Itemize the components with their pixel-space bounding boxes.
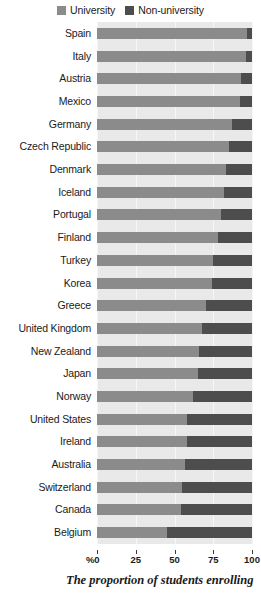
bar-segment-university	[97, 300, 206, 311]
bar-row	[97, 346, 252, 357]
legend-entry-university: University	[57, 5, 115, 16]
bar-segment-university	[97, 51, 246, 62]
category-label: New Zealand	[31, 346, 91, 357]
bar-row	[97, 51, 252, 62]
category-label: Turkey	[60, 255, 91, 266]
category-label: Denmark	[49, 164, 91, 175]
bar-segment-non-university	[181, 504, 252, 515]
bar-segment-university	[97, 141, 229, 152]
bar-segment-non-university	[247, 28, 252, 39]
category-label: Iceland	[58, 187, 91, 198]
bar-segment-non-university	[226, 164, 252, 175]
bar-segment-non-university	[221, 209, 252, 220]
bar-segment-university	[97, 164, 226, 175]
bar-segment-non-university	[246, 51, 252, 62]
bar-row	[97, 187, 252, 198]
bar-segment-university	[97, 368, 198, 379]
bar-row	[97, 164, 252, 175]
bar-row	[97, 73, 252, 84]
bar-segment-non-university	[202, 323, 252, 334]
bar-segment-university	[97, 459, 185, 470]
bar-segment-non-university	[229, 141, 252, 152]
bar-row	[97, 323, 252, 334]
bar-segment-non-university	[206, 300, 253, 311]
legend-swatch-non-university	[125, 6, 134, 15]
category-label: Japan	[63, 368, 91, 379]
bar-row	[97, 368, 252, 379]
bar-segment-non-university	[187, 414, 252, 425]
percent-symbol-label: %	[86, 555, 94, 565]
bar-segment-non-university	[241, 73, 252, 84]
plot-area	[97, 22, 252, 544]
bar-segment-university	[97, 73, 241, 84]
category-label: Czech Republic	[20, 141, 91, 152]
bar-segment-university	[97, 232, 218, 243]
legend-label-university: University	[70, 5, 115, 16]
bar-segment-university	[97, 255, 213, 266]
bar-segment-university	[97, 391, 193, 402]
bar-row	[97, 278, 252, 289]
bar-segment-university	[97, 278, 212, 289]
category-label: Canada	[55, 504, 91, 515]
bar-row	[97, 527, 252, 538]
category-label: United Kingdom	[18, 323, 91, 334]
bar-row	[97, 255, 252, 266]
legend-swatch-university	[57, 6, 66, 15]
bar-row	[97, 436, 252, 447]
chart-legend: University Non-university	[0, 3, 261, 17]
bar-row	[97, 209, 252, 220]
bar-segment-non-university	[213, 255, 252, 266]
category-label: Korea	[64, 278, 91, 289]
bar-row	[97, 119, 252, 130]
bar-segment-non-university	[182, 482, 252, 493]
bar-segment-non-university	[185, 459, 252, 470]
bar-segment-non-university	[212, 278, 252, 289]
category-label: Portugal	[53, 209, 91, 220]
bar-segment-university	[97, 28, 247, 39]
category-label: Norway	[56, 391, 91, 402]
legend-label-non-university: Non-university	[138, 5, 204, 16]
category-label: United States	[30, 414, 91, 425]
bar-segment-university	[97, 346, 199, 357]
category-label: Mexico	[59, 96, 91, 107]
bar-segment-non-university	[193, 391, 252, 402]
bar-row	[97, 232, 252, 243]
bar-segment-university	[97, 187, 224, 198]
bar-row	[97, 459, 252, 470]
category-label: Australia	[51, 459, 91, 470]
axis-tick-label: 0	[94, 555, 99, 565]
axis-tick-label: 50	[169, 555, 180, 565]
category-label: Italy	[72, 51, 91, 62]
bar-row	[97, 141, 252, 152]
axis-tick-label: 25	[130, 555, 141, 565]
bar-segment-non-university	[232, 119, 252, 130]
category-label: Ireland	[60, 436, 91, 447]
bar-segment-university	[97, 96, 240, 107]
bar-segment-non-university	[187, 436, 252, 447]
stacked-bar-chart: SpainItalyAustriaMexicoGermanyCzech Repu…	[0, 22, 261, 550]
legend-entry-non-university: Non-university	[125, 5, 204, 16]
bar-row	[97, 96, 252, 107]
bar-segment-non-university	[199, 346, 252, 357]
category-label: Switzerland	[38, 482, 91, 493]
category-label: Finland	[58, 232, 91, 243]
category-label: Belgium	[54, 527, 91, 538]
bar-segment-university	[97, 119, 232, 130]
category-label: Austria	[59, 73, 91, 84]
bar-segment-university	[97, 436, 187, 447]
bar-segment-university	[97, 414, 187, 425]
gridline	[252, 22, 253, 544]
category-label: Germany	[49, 119, 91, 130]
bar-segment-non-university	[198, 368, 252, 379]
bar-row	[97, 391, 252, 402]
bar-segment-non-university	[167, 527, 252, 538]
bar-segment-non-university	[224, 187, 252, 198]
bar-segment-university	[97, 482, 182, 493]
bar-segment-university	[97, 323, 202, 334]
bar-segment-non-university	[218, 232, 252, 243]
category-label: Spain	[65, 28, 91, 39]
value-axis: % 0255075100	[0, 550, 261, 568]
bar-row	[97, 28, 252, 39]
bar-segment-university	[97, 527, 167, 538]
figure-caption: The proportion of students enrolling	[66, 574, 261, 587]
